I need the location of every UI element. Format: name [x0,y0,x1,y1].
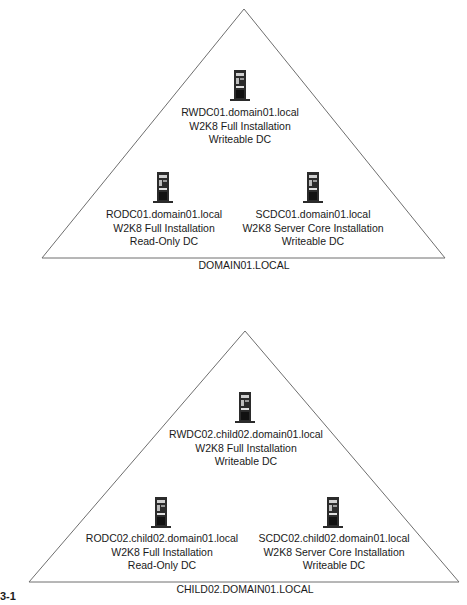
server-hostname: RWDC02.child02.domain01.local [169,428,323,442]
server-install-type: W2K8 Full Installation [181,120,299,134]
server-label-scdc01: SCDC01.domain01.local W2K8 Server Core I… [242,208,383,249]
server-tower-icon [303,172,323,206]
domain-name-label: DOMAIN01.LOCAL [198,259,289,271]
server-tower-icon [323,497,343,531]
server-tower-icon [235,392,255,426]
server-dc-type: Writeable DC [169,455,323,469]
server-install-type: W2K8 Server Core Installation [242,222,383,236]
figure-number: 3-1 [0,590,16,602]
server-tower-icon [153,172,173,206]
server-hostname: RODC01.domain01.local [106,208,222,222]
server-hostname: RODC02.child02.domain01.local [86,532,238,546]
domain-name-label: CHILD02.DOMAIN01.LOCAL [176,583,313,595]
server-label-rodc02: RODC02.child02.domain01.local W2K8 Full … [86,532,238,573]
server-tower-icon [230,70,250,104]
server-hostname: SCDC02.child02.domain01.local [258,532,409,546]
server-label-rodc01: RODC01.domain01.local W2K8 Full Installa… [106,208,222,249]
server-tower-icon [151,497,171,531]
server-dc-type: Writeable DC [258,559,409,573]
diagram-canvas: RWDC01.domain01.local W2K8 Full Installa… [0,0,467,605]
server-label-scdc02: SCDC02.child02.domain01.local W2K8 Serve… [258,532,409,573]
server-install-type: W2K8 Full Installation [86,546,238,560]
server-dc-type: Read-Only DC [86,559,238,573]
server-label-rwdc01: RWDC01.domain01.local W2K8 Full Installa… [181,106,299,147]
server-label-rwdc02: RWDC02.child02.domain01.local W2K8 Full … [169,428,323,469]
server-dc-type: Writeable DC [242,235,383,249]
server-hostname: SCDC01.domain01.local [242,208,383,222]
server-install-type: W2K8 Full Installation [169,442,323,456]
server-dc-type: Writeable DC [181,133,299,147]
server-install-type: W2K8 Server Core Installation [258,546,409,560]
server-hostname: RWDC01.domain01.local [181,106,299,120]
server-install-type: W2K8 Full Installation [106,222,222,236]
server-dc-type: Read-Only DC [106,235,222,249]
